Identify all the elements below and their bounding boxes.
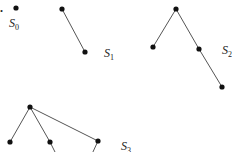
- tree-s2-edge: [176, 9, 199, 49]
- tree-s3-node: [7, 139, 12, 144]
- tree-s1-edge: [62, 9, 85, 52]
- tree-labels: S0S1S2S3: [9, 16, 232, 152]
- tree-s2-node: [196, 46, 201, 51]
- tree-s2-node: [173, 6, 178, 11]
- figure-marker: a.: [0, 1, 3, 15]
- tree-s3-node: [47, 139, 52, 144]
- tree-s3-edge: [10, 107, 30, 142]
- tree-diagram: a. S0S1S2S3: [0, 0, 232, 152]
- tree-s0-label: S0: [9, 16, 19, 32]
- tree-s2-label: S2: [222, 43, 232, 59]
- tree-edges: [10, 9, 222, 152]
- tree-s1-label: S1: [104, 46, 114, 62]
- tree-s3-node: [95, 138, 100, 143]
- tree-s2-edge: [153, 9, 176, 47]
- tree-s1-node: [59, 6, 64, 11]
- tree-s2-node: [150, 44, 155, 49]
- tree-s2-edge: [199, 49, 222, 87]
- tree-s2-node: [219, 84, 224, 89]
- tree-s1-node: [82, 49, 87, 54]
- tree-s3-label: S3: [121, 139, 131, 152]
- tree-s0-node: [13, 5, 18, 10]
- tree-s3-node: [27, 104, 32, 109]
